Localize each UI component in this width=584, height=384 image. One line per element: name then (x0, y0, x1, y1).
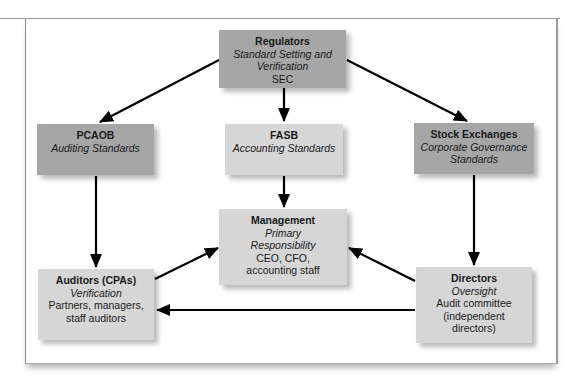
node-stock-exchanges: Stock Exchanges Corporate Governance Sta… (414, 123, 534, 174)
node-role: Primary Responsibility (219, 227, 347, 252)
node-role: Oversight (416, 285, 532, 298)
node-role: Accounting Standards (225, 142, 343, 155)
arrow-regulators-stock-exchanges (347, 60, 467, 121)
node-role: Corporate Governance Standards (414, 141, 534, 166)
node-detail: CEO, CFO, accounting staff (219, 252, 347, 277)
node-role: Verification (38, 287, 154, 300)
node-role: Standard Setting and Verification (219, 48, 346, 73)
node-auditors: Auditors (CPAs) Verification Partners, m… (38, 269, 154, 340)
node-title: Management (219, 214, 347, 227)
node-title: PCAOB (37, 129, 154, 142)
node-role: Auditing Standards (37, 142, 154, 155)
node-title: Auditors (CPAs) (38, 274, 154, 287)
node-directors: Directors Oversight Audit committee (ind… (416, 267, 532, 343)
arrow-regulators-pcaob (100, 60, 219, 122)
node-title: FASB (225, 129, 343, 142)
node-title: Directors (416, 272, 532, 285)
node-management: Management Primary Responsibility CEO, C… (219, 209, 347, 285)
node-detail: Audit committee (independent directors) (416, 297, 532, 335)
arrow-directors-management (349, 248, 415, 281)
node-fasb: FASB Accounting Standards (225, 124, 343, 175)
node-title: Stock Exchanges (414, 128, 534, 141)
node-title: Regulators (219, 35, 346, 48)
node-detail: SEC (219, 73, 346, 86)
node-regulators: Regulators Standard Setting and Verifica… (219, 30, 346, 88)
arrow-auditors-management (155, 248, 218, 279)
node-pcaob: PCAOB Auditing Standards (37, 124, 154, 175)
node-detail: Partners, managers, staff auditors (38, 299, 154, 324)
